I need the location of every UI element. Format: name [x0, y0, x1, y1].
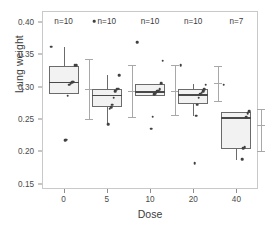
- data-point: [64, 139, 67, 142]
- interval-bar-line: [261, 109, 262, 151]
- interval-bar-cap-top: [85, 59, 93, 60]
- x-tick-mark: [64, 189, 65, 193]
- median-line: [92, 95, 122, 97]
- data-point: [68, 83, 71, 86]
- data-point: [179, 64, 182, 67]
- boxplot-figure: Lung weight Dose 0.150.200.250.300.350.4…: [0, 0, 272, 228]
- y-tick-label: 0.20: [10, 147, 34, 156]
- y-tick-mark: [38, 86, 42, 87]
- interval-bar-cap-bottom: [214, 101, 222, 102]
- x-tick-mark: [193, 189, 194, 193]
- group-count-label: n=10: [98, 17, 116, 26]
- data-point: [199, 93, 202, 96]
- y-tick-mark: [38, 151, 42, 152]
- data-point: [136, 41, 139, 44]
- median-line: [135, 91, 165, 93]
- interval-bar-cap-bottom: [85, 119, 93, 120]
- x-tick-label: 5: [105, 195, 110, 204]
- y-tick-label: 0.35: [10, 50, 34, 59]
- interval-bar-cap-top: [214, 66, 222, 67]
- group-count-label: n=10: [141, 17, 159, 26]
- data-point: [114, 90, 117, 93]
- x-tick-label: 10: [145, 195, 154, 204]
- x-tick-mark: [150, 189, 151, 193]
- data-point: [196, 104, 199, 107]
- interval-bar-cap-bottom: [171, 115, 179, 116]
- data-point: [160, 82, 163, 85]
- x-tick-mark: [236, 189, 237, 193]
- interval-bar-cap-top: [128, 65, 136, 66]
- y-tick-label: 0.25: [10, 115, 34, 124]
- interval-bar-mean-tick: [214, 83, 222, 84]
- data-point: [223, 83, 226, 86]
- interval-bar-line: [175, 65, 176, 114]
- interval-bar-cap-bottom: [128, 117, 136, 118]
- box: [92, 89, 122, 107]
- group-count-label: n=7: [229, 17, 243, 26]
- group-count-label: n=10: [54, 17, 72, 26]
- data-point: [150, 128, 153, 131]
- y-tick-label: 0.40: [10, 18, 34, 27]
- y-tick-mark: [38, 22, 42, 23]
- data-point: [246, 112, 249, 115]
- x-tick-label: 40: [232, 195, 241, 204]
- median-line: [178, 94, 208, 96]
- data-point: [93, 20, 96, 23]
- x-axis-title: Dose: [42, 208, 258, 220]
- data-point: [198, 96, 201, 99]
- data-point: [67, 94, 70, 97]
- data-point: [113, 96, 116, 99]
- data-point: [107, 123, 110, 126]
- data-point: [118, 74, 121, 77]
- x-tick-label: 0: [61, 195, 66, 204]
- interval-bar-cap-top: [171, 65, 179, 66]
- y-tick-mark: [38, 119, 42, 120]
- plot-panel: [42, 11, 258, 189]
- data-point: [245, 116, 248, 119]
- y-tick-label: 0.30: [10, 82, 34, 91]
- data-point: [74, 64, 77, 67]
- y-tick-label: 0.15: [10, 179, 34, 188]
- data-point: [241, 158, 244, 161]
- data-point: [193, 162, 196, 165]
- y-tick-mark: [38, 183, 42, 184]
- group-count-label: n=10: [184, 17, 202, 26]
- data-point: [195, 115, 198, 118]
- data-point: [152, 115, 155, 118]
- data-point: [161, 60, 164, 63]
- data-point: [50, 45, 53, 48]
- interval-bar-cap-top: [257, 109, 265, 110]
- y-tick-mark: [38, 54, 42, 55]
- data-point: [108, 107, 111, 110]
- data-point: [242, 147, 245, 150]
- interval-bar-cap-bottom: [257, 151, 265, 152]
- x-tick-mark: [107, 189, 108, 193]
- data-point: [153, 93, 156, 96]
- interval-bar-mean-tick: [257, 125, 265, 126]
- data-point: [205, 83, 208, 86]
- x-tick-label: 20: [189, 195, 198, 204]
